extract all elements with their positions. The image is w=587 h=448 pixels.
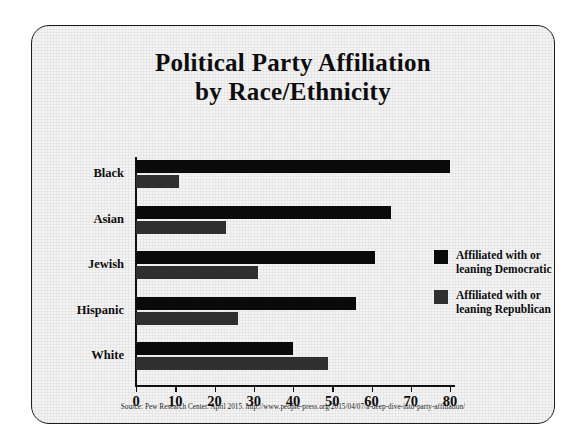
category-label-black: Black bbox=[93, 166, 124, 181]
bar-white-republican bbox=[136, 357, 328, 370]
x-tick bbox=[372, 386, 373, 392]
slide-frame: Political Party Affiliation by Race/Ethn… bbox=[31, 25, 555, 424]
category-label-jewish: Jewish bbox=[88, 257, 124, 272]
category-label-asian: Asian bbox=[93, 212, 124, 227]
legend-swatch-democratic-icon bbox=[434, 250, 448, 264]
legend-label-democratic: Affiliated with or leaning Democratic bbox=[456, 249, 552, 276]
bar-hispanic-democratic bbox=[136, 297, 356, 310]
x-axis-line bbox=[135, 385, 455, 387]
legend-item-republican: Affiliated with or leaning Republican bbox=[434, 289, 579, 316]
category-label-white: White bbox=[91, 348, 124, 363]
bar-group: White bbox=[136, 339, 450, 385]
bar-group: Black bbox=[136, 157, 450, 203]
bar-jewish-democratic bbox=[136, 251, 375, 264]
bar-asian-democratic bbox=[136, 206, 391, 219]
chart-title: Political Party Affiliation by Race/Ethn… bbox=[32, 48, 554, 106]
x-tick bbox=[136, 386, 137, 392]
x-tick bbox=[293, 386, 294, 392]
bar-group: Hispanic bbox=[136, 294, 450, 340]
x-tick bbox=[411, 386, 412, 392]
chart-legend: Affiliated with or leaning Democratic Af… bbox=[434, 249, 579, 329]
bar-hispanic-republican bbox=[136, 312, 238, 325]
bar-black-republican bbox=[136, 175, 179, 188]
x-tick bbox=[450, 386, 451, 392]
legend-item-democratic: Affiliated with or leaning Democratic bbox=[434, 249, 579, 276]
x-tick bbox=[215, 386, 216, 392]
x-tick bbox=[254, 386, 255, 392]
bar-jewish-republican bbox=[136, 266, 258, 279]
x-tick bbox=[332, 386, 333, 392]
bar-black-democratic bbox=[136, 160, 450, 173]
category-label-hispanic: Hispanic bbox=[77, 303, 124, 318]
slide-page: Political Party Affiliation by Race/Ethn… bbox=[0, 0, 587, 448]
source-note: Source: Pew Research Center. April 2015.… bbox=[32, 403, 554, 411]
plot-area: BlackAsianJewishHispanicWhite 0102030405… bbox=[136, 157, 450, 385]
legend-label-republican: Affiliated with or leaning Republican bbox=[456, 289, 551, 316]
legend-swatch-republican-icon bbox=[434, 290, 448, 304]
chart-title-line-1: Political Party Affiliation bbox=[155, 49, 431, 76]
x-tick bbox=[175, 386, 176, 392]
bar-group: Asian bbox=[136, 203, 450, 249]
bar-white-democratic bbox=[136, 342, 293, 355]
bar-asian-republican bbox=[136, 221, 226, 234]
chart-title-line-2: by Race/Ethnicity bbox=[32, 77, 554, 106]
bar-group: Jewish bbox=[136, 248, 450, 294]
